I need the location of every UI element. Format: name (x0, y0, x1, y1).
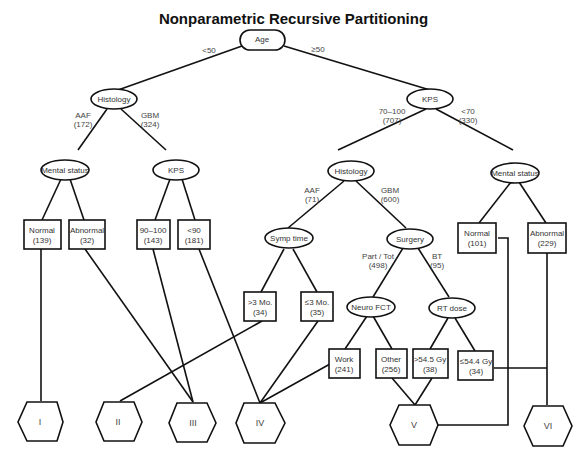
svg-text:(181): (181) (185, 236, 204, 245)
svg-text:(32): (32) (80, 236, 95, 245)
svg-text:Normal: Normal (29, 226, 55, 235)
svg-text:Neuro FCT: Neuro FCT (351, 303, 391, 312)
svg-text:≤54.4 Gy: ≤54.4 Gy (460, 357, 492, 366)
svg-text:≤3 Mo.: ≤3 Mo. (305, 298, 329, 307)
svg-text:(35): (35) (310, 308, 325, 317)
class-hex-i: I (18, 402, 63, 441)
svg-text:Work: Work (335, 355, 355, 364)
svg-text:<70: <70 (461, 107, 475, 116)
svg-text:(34): (34) (253, 308, 268, 317)
svg-text:V: V (411, 420, 417, 430)
svg-text:AAF: AAF (304, 186, 320, 195)
svg-text:Symp time: Symp time (270, 234, 308, 243)
class-hex-iv: IV (236, 403, 285, 443)
svg-text:(256): (256) (382, 365, 401, 374)
class-hex-vi: VI (524, 406, 572, 446)
svg-text:Histology: Histology (98, 95, 131, 104)
leaf-kps-90-100: 90–100 (143) (137, 220, 170, 249)
svg-text:(229): (229) (538, 239, 557, 248)
class-hex-ii: II (96, 402, 142, 441)
svg-text:Surgery: Surgery (396, 235, 424, 244)
svg-text:(139): (139) (33, 236, 52, 245)
leaf-le3mo: ≤3 Mo. (35) (301, 292, 333, 321)
svg-text:Normal: Normal (464, 229, 490, 238)
svg-text:Part / Tot: Part / Tot (362, 252, 395, 261)
svg-text:KPS: KPS (168, 166, 184, 175)
svg-text:GBM: GBM (381, 186, 400, 195)
svg-text:(95): (95) (430, 261, 445, 270)
svg-text:I: I (39, 417, 42, 427)
svg-text:GBM: GBM (141, 111, 160, 120)
svg-text:(101): (101) (468, 239, 487, 248)
svg-text:Age: Age (255, 35, 270, 44)
svg-text:(600): (600) (381, 195, 400, 204)
node-histology-right: Histology (328, 161, 374, 181)
svg-text:(330): (330) (459, 116, 478, 125)
node-rt-dose: RT dose (429, 298, 475, 318)
svg-text:Mental status: Mental status (41, 166, 89, 175)
svg-text:90–100: 90–100 (140, 226, 167, 235)
leaf-gt3mo: >3 Mo. (34) (244, 292, 276, 321)
svg-text:RT dose: RT dose (437, 304, 467, 313)
svg-text:III: III (189, 418, 197, 428)
svg-text:(34): (34) (469, 367, 484, 376)
svg-text:Mental status: Mental status (491, 169, 539, 178)
svg-text:<90: <90 (187, 226, 201, 235)
leaf-normal-101: Normal (101) (458, 223, 496, 253)
leaf-other: Other (256) (376, 349, 407, 378)
svg-text:(71): (71) (305, 195, 320, 204)
svg-text:(172): (172) (74, 120, 93, 129)
leaf-abnormal-32: Abnormal (32) (69, 220, 105, 249)
node-neuro-fct: Neuro FCT (347, 297, 395, 317)
svg-text:KPS: KPS (422, 95, 438, 104)
svg-text:IV: IV (256, 418, 265, 428)
node-mental-status-right: Mental status (491, 163, 539, 183)
svg-text:(324): (324) (141, 120, 160, 129)
leaf-work: Work (241) (329, 349, 360, 378)
node-age: Age (240, 30, 285, 50)
svg-text:VI: VI (544, 421, 553, 431)
leaf-abnormal-229: Abnormal (229) (528, 223, 566, 253)
svg-text:(241): (241) (335, 365, 354, 374)
svg-text:70–100: 70–100 (379, 107, 406, 116)
svg-text:II: II (115, 417, 120, 427)
svg-text:≥50: ≥50 (311, 45, 325, 54)
leaf-normal-139: Normal (139) (24, 220, 61, 249)
svg-text:(38): (38) (423, 365, 438, 374)
node-symp-time: Symp time (265, 228, 313, 248)
node-kps-left: KPS (153, 160, 199, 180)
svg-text:>3 Mo.: >3 Mo. (248, 298, 273, 307)
svg-text:>54.5 Gy: >54.5 Gy (414, 355, 447, 364)
svg-text:AAF: AAF (75, 111, 91, 120)
svg-text:BT: BT (432, 252, 442, 261)
svg-text:<50: <50 (202, 46, 216, 55)
leaf-gt54-5-gy: >54.5 Gy (38) (413, 349, 448, 378)
leaf-kps-lt90: <90 (181) (178, 220, 210, 249)
svg-text:Histology: Histology (335, 167, 368, 176)
svg-text:Other: Other (381, 355, 401, 364)
svg-text:Abnormal: Abnormal (70, 226, 104, 235)
svg-text:(498): (498) (369, 261, 388, 270)
class-hex-v: V (390, 405, 438, 445)
svg-text:(707): (707) (383, 116, 402, 125)
class-hex-iii: III (169, 403, 216, 442)
node-surgery: Surgery (387, 229, 433, 249)
node-mental-status-left: Mental status (41, 160, 89, 180)
svg-text:Abnormal: Abnormal (530, 229, 564, 238)
svg-text:(143): (143) (144, 236, 163, 245)
node-kps-right: KPS (407, 89, 453, 109)
node-histology-left: Histology (91, 89, 137, 109)
rpa-tree: Age Histology KPS Mental status KPS Hist… (0, 0, 587, 461)
leaf-le54-4-gy: ≤54.4 Gy (34) (458, 351, 493, 380)
